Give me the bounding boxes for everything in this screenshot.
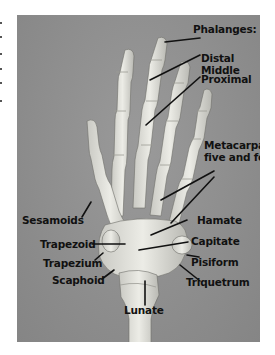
label-lunate: Lunate xyxy=(124,305,164,316)
page-edge-mark xyxy=(0,36,2,38)
label-distal: Distal xyxy=(201,53,234,64)
label-metacarpals: Metacarpals xyxy=(204,140,260,151)
label-pisiform: Pisiform xyxy=(191,257,238,268)
label-trapezium: Trapezium xyxy=(43,258,102,269)
page-edge-mark xyxy=(0,68,2,70)
label-scaphoid: Scaphoid xyxy=(52,275,105,286)
label-capitate: Capitate xyxy=(191,236,240,247)
page-edge-mark xyxy=(0,82,2,84)
hand-skeleton-photo: Phalanges: Distal Middle Proximal Metaca… xyxy=(17,15,260,342)
label-proximal: Proximal xyxy=(201,74,252,85)
page-edge-mark xyxy=(0,53,2,55)
page-edge-mark xyxy=(0,22,2,24)
page-edge-mark xyxy=(0,100,2,102)
label-triquetrum: Triquetrum xyxy=(186,277,250,288)
label-metacarpals-sub: five and four xyxy=(204,152,260,163)
label-hamate: Hamate xyxy=(197,215,242,226)
phalanges-header: Phalanges: xyxy=(193,24,257,35)
label-sesamoids: Sesamoids xyxy=(22,215,84,226)
label-trapezoid: Trapezoid xyxy=(40,239,96,250)
